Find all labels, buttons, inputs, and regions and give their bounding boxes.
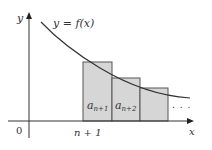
ellipsis: . . . xyxy=(172,101,191,110)
y-axis-label: y xyxy=(17,13,23,24)
rect-label-a-n-plus-2: an+2 xyxy=(115,100,136,111)
rect-a-n-plus-3 xyxy=(140,88,168,121)
y-axis-arrow-icon xyxy=(26,12,32,19)
x-axis-label: x xyxy=(189,127,195,137)
integral-test-diagram: y y = f(x) 0 n + 1 x an+1 an+2 . . . xyxy=(0,0,212,150)
origin-label: 0 xyxy=(16,126,22,136)
tick-label-n-plus-1: n + 1 xyxy=(74,128,102,138)
rect-label-base: a xyxy=(115,99,122,112)
diagram-canvas xyxy=(0,0,212,150)
rect-label-a-n-plus-1: an+1 xyxy=(87,100,108,111)
curve-label: y = f(x) xyxy=(53,18,94,29)
rect-label-base: a xyxy=(87,99,94,112)
x-axis-arrow-icon xyxy=(187,118,194,124)
rect-label-subscript: n+1 xyxy=(94,105,109,113)
rect-label-subscript: n+2 xyxy=(122,105,137,113)
